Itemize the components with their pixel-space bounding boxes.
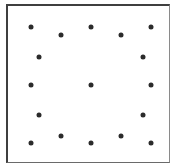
dot: [59, 33, 64, 38]
dot: [59, 134, 64, 139]
dot: [29, 25, 34, 30]
dot: [37, 55, 42, 60]
dot: [29, 83, 34, 88]
dot: [37, 113, 42, 118]
dot: [89, 141, 94, 146]
dot: [119, 33, 124, 38]
dot: [141, 55, 146, 60]
dot: [149, 25, 154, 30]
dot: [89, 83, 94, 88]
dot: [119, 134, 124, 139]
dot: [149, 141, 154, 146]
dot: [29, 141, 34, 146]
dot: [149, 83, 154, 88]
dot: [141, 113, 146, 118]
dot: [89, 25, 94, 30]
